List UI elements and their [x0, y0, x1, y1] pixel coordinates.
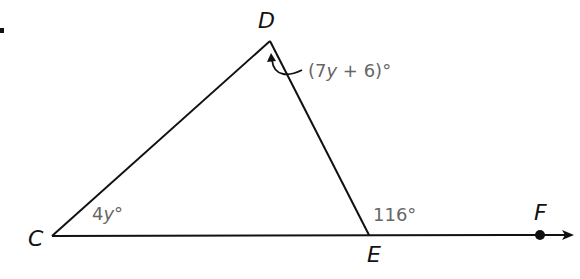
arrowhead-up-icon	[267, 53, 276, 62]
label-c: C	[28, 226, 44, 251]
label-e: E	[367, 242, 381, 267]
diagram-stage: D C E F 4y° (7y + 6)° 116°	[0, 0, 580, 279]
ray-cef	[52, 235, 566, 236]
problem-marker	[0, 28, 4, 33]
point-f-dot	[535, 230, 545, 240]
side-cd	[52, 41, 270, 236]
label-d: D	[258, 8, 275, 33]
triangle-diagram: D C E F 4y° (7y + 6)° 116°	[0, 0, 580, 279]
label-f: F	[534, 200, 547, 225]
angle-e-exterior-label: 116°	[373, 204, 416, 225]
angle-c-label: 4y°	[92, 203, 123, 224]
angle-d-label: (7y + 6)°	[308, 60, 391, 81]
